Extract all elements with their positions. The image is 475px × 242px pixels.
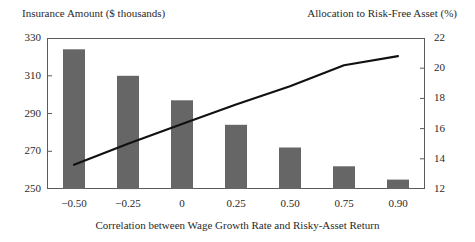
bar (63, 49, 85, 189)
bar (333, 166, 355, 189)
x-axis-tick-label: −0.25 (115, 197, 140, 209)
bar (387, 180, 409, 189)
left-axis-tick-label: 250 (25, 182, 42, 194)
x-axis-tick-label: 0.90 (388, 197, 407, 209)
left-axis-tick-label: 290 (25, 107, 42, 119)
left-axis-tick-label: 310 (25, 69, 42, 81)
x-axis-tick-label: 0.25 (226, 197, 245, 209)
bar (171, 100, 193, 189)
left-axis-tick-label: 330 (25, 31, 42, 43)
bar (279, 148, 301, 190)
right-axis-tick-label: 22 (434, 31, 445, 43)
right-axis-tick-label: 12 (434, 182, 445, 194)
bar (225, 125, 247, 189)
right-axis-tick-label: 14 (434, 152, 445, 164)
x-axis-title: Correlation between Wage Growth Rate and… (0, 219, 475, 231)
chart-figure: Insurance Amount ($ thousands) Allocatio… (0, 0, 475, 242)
x-axis-tick-label: 0 (179, 197, 185, 209)
x-axis-tick-label: 0.50 (280, 197, 299, 209)
right-axis-tick-label: 18 (434, 91, 445, 103)
left-axis-tick-label: 270 (25, 144, 42, 156)
bar (117, 76, 139, 189)
bar-series (63, 49, 409, 189)
x-axis-tick-label: −0.50 (61, 197, 86, 209)
right-axis-tick-label: 20 (434, 61, 445, 73)
right-axis-tick-label: 16 (434, 122, 445, 134)
x-axis-tick-label: 0.75 (334, 197, 353, 209)
